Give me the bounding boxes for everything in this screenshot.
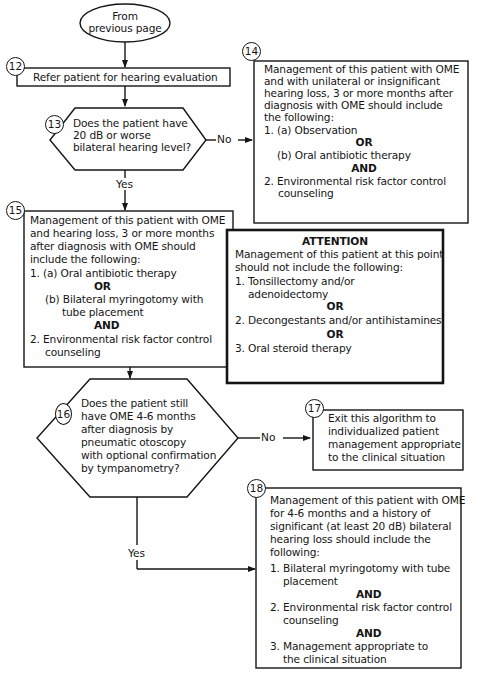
attention-line: should not include the following: xyxy=(235,261,403,273)
step18-item2-cont: counseling xyxy=(283,614,339,626)
step16-line: by tympanometry? xyxy=(81,462,179,474)
step14-line: hearing loss, 3 or more months after xyxy=(264,87,453,99)
step18-number: 18 xyxy=(247,479,266,498)
attention-item2: 2. Decongestants and/or antihistamines xyxy=(235,314,441,326)
step18-item1-cont: placement xyxy=(283,575,338,587)
step16-line: Does the patient still xyxy=(81,397,188,409)
step18-item3-cont: the clinical situation xyxy=(283,653,387,665)
step13-line: 20 dB or worse xyxy=(73,129,151,141)
start-label-line2: previous page xyxy=(85,22,165,34)
step17-line: Exit this algorithm to xyxy=(328,412,436,424)
step18-and1: AND xyxy=(356,588,381,600)
step16-line: with optional confirmation xyxy=(81,449,216,461)
step14-item1a: 1. (a) Observation xyxy=(264,124,357,136)
step18-line: hearing loss should include the xyxy=(270,533,431,545)
step14-line: Management of this patient with OME xyxy=(264,63,459,75)
step14-line: and with unilateral or insignificant xyxy=(264,75,440,87)
step15-line: Management of this patient with OME xyxy=(30,214,225,226)
step18-item3: 3. Management appropriate to xyxy=(270,640,428,652)
step12-text: Refer patient for hearing evaluation xyxy=(33,71,218,83)
attention-line: Management of this patient at this point xyxy=(235,248,443,260)
step18-line: significant (at least 20 dB) bilateral xyxy=(270,520,451,532)
step14-line: diagnosis with OME should include xyxy=(264,99,443,111)
step15-line: after diagnosis with OME should xyxy=(30,240,196,252)
step17-line: to the clinical situation xyxy=(328,451,445,463)
attention-item1: 1. Tonsillectomy and/or xyxy=(235,275,355,287)
step16-line: after diagnosis by xyxy=(81,423,173,435)
step15-item1b: (b) Bilateral myringotomy with xyxy=(45,293,203,305)
step14-line: the following: xyxy=(264,111,334,123)
step15-line: and hearing loss, 3 or more months xyxy=(30,227,214,239)
step15-and: AND xyxy=(94,319,119,331)
step12-number: 12 xyxy=(6,57,25,76)
step16-line: have OME 4-6 months xyxy=(81,410,196,422)
step18-and2: AND xyxy=(356,627,381,639)
step16-line: pneumatic otoscopy xyxy=(81,436,186,448)
step13-no-label: No xyxy=(217,133,231,145)
attention-heading: ATTENTION xyxy=(227,235,443,247)
attention-or2: OR xyxy=(227,328,443,340)
step13-line: bilateral hearing level? xyxy=(73,141,191,153)
start-label-line1: From xyxy=(85,10,165,22)
step15-line: include the following: xyxy=(30,253,140,265)
step15-item2: 2. Environmental risk factor control xyxy=(30,333,212,345)
step14-and: AND xyxy=(264,162,464,174)
step18-item2: 2. Environmental risk factor control xyxy=(270,601,452,613)
step14-item2-cont: counseling xyxy=(278,187,334,199)
step14-item1b: (b) Oral antibiotic therapy xyxy=(277,149,411,161)
attention-or1: OR xyxy=(227,300,443,312)
step15-number: 15 xyxy=(6,201,25,220)
step13-line: Does the patient have xyxy=(73,117,188,129)
step15-item1a: 1. (a) Oral antibiotic therapy xyxy=(30,267,177,279)
step18-line: following: xyxy=(270,546,320,558)
step17-number: 17 xyxy=(305,399,324,418)
step14-number: 14 xyxy=(242,42,261,61)
step14-item2: 2. Environmental risk factor control xyxy=(264,175,446,187)
step14-or: OR xyxy=(264,136,464,148)
step13-yes-label: Yes xyxy=(116,178,133,190)
attention-item3: 3. Oral steroid therapy xyxy=(235,342,352,354)
step15-or: OR xyxy=(94,280,111,292)
attention-item1-cont: adenoidectomy xyxy=(248,288,328,300)
step15-item1b-cont: tube placement xyxy=(62,306,144,318)
step16-number: 16 xyxy=(55,403,72,425)
step17-line: individualized patient xyxy=(328,425,439,437)
step16-yes-label: Yes xyxy=(128,547,145,559)
step15-item2-cont: counseling xyxy=(45,346,101,358)
step13-number: 13 xyxy=(45,115,64,134)
step16-no-label: No xyxy=(261,431,275,443)
step18-line: for 4-6 months and a history of xyxy=(270,507,430,519)
step18-line: Management of this patient with OME xyxy=(270,494,465,506)
step18-item1: 1. Bilateral myringotomy with tube xyxy=(270,562,450,574)
step17-line: management appropriate xyxy=(328,438,461,450)
